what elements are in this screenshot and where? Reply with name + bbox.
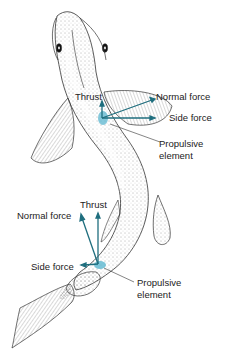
upper-propulsive-label-line2: element bbox=[159, 151, 193, 161]
left-pectoral-fin bbox=[31, 98, 74, 163]
lower-normal-force-label: Normal force bbox=[17, 211, 71, 221]
lower-propulsive-label-line1: Propulsive bbox=[137, 278, 181, 288]
upper-normal-force-label: Normal force bbox=[156, 92, 210, 102]
upper-side-force-label: Side force bbox=[169, 113, 212, 123]
lower-thrust-label: Thrust bbox=[80, 200, 107, 210]
fish-illustration bbox=[0, 0, 227, 361]
dorsal-fin bbox=[153, 195, 170, 245]
lower-propulsive-label-line2: element bbox=[137, 290, 171, 300]
fish-force-diagram: Thrust Normal force Side force Propulsiv… bbox=[0, 0, 227, 361]
upper-propulsive-label-line1: Propulsive bbox=[159, 139, 203, 149]
lower-side-force-label: Side force bbox=[31, 262, 74, 272]
upper-thrust-label: Thrust bbox=[75, 92, 102, 102]
